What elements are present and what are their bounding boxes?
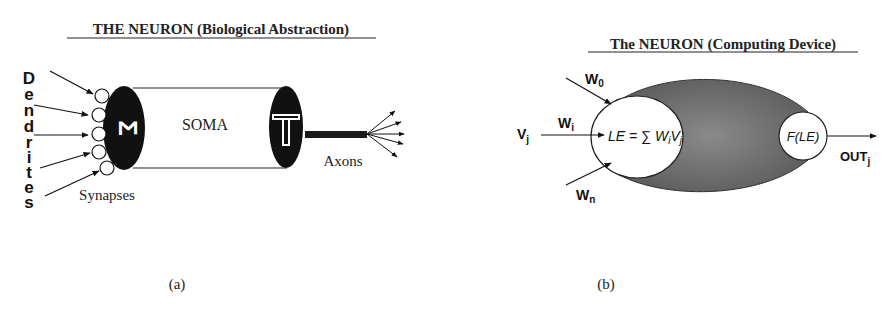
axon-terminals <box>367 111 404 157</box>
synapse-circle <box>100 161 114 175</box>
input-label: Vj <box>517 126 529 145</box>
dendrites-label: D e n d r i t e s <box>23 69 35 212</box>
weight-n-arrow <box>566 163 611 185</box>
axons-label: Axons <box>323 153 362 169</box>
synapse-circle <box>92 108 106 122</box>
neuron-figure: THE NEURON (Biological Abstraction) D e … <box>0 0 891 313</box>
weight-i-label: Wi <box>558 115 574 133</box>
synapse-circle <box>95 89 109 103</box>
synapses-label: Synapses <box>79 187 135 203</box>
weight-0-label: W0 <box>585 71 604 89</box>
dendrite-arrow <box>50 71 93 94</box>
caption-a: (a) <box>169 276 186 293</box>
panel-a-biological-neuron: THE NEURON (Biological Abstraction) D e … <box>23 21 404 293</box>
panel-b-title: The NEURON (Computing Device) <box>610 36 836 53</box>
synapse-circle <box>92 127 106 141</box>
sigma-icon: Σ <box>113 120 143 136</box>
output-label: OUTj <box>840 149 870 167</box>
le-formula: LE = ∑ WiVj <box>608 128 683 146</box>
dendrite-arrows <box>34 71 99 196</box>
dendrite-arrow <box>40 153 90 168</box>
soma-label: SOMA <box>182 116 229 133</box>
dendrite-arrow <box>34 105 88 115</box>
panel-a-title: THE NEURON (Biological Abstraction) <box>93 21 349 38</box>
panel-b-computing-neuron: The NEURON (Computing Device) W0 Wi Vj W… <box>517 36 876 293</box>
caption-b: (b) <box>597 276 615 293</box>
dendrites-letter: s <box>24 193 33 212</box>
weight-n-label: Wn <box>576 187 595 205</box>
activation-label: F(LE) <box>787 129 820 144</box>
axon-bundle <box>305 131 367 138</box>
synapse-circle <box>92 145 106 159</box>
